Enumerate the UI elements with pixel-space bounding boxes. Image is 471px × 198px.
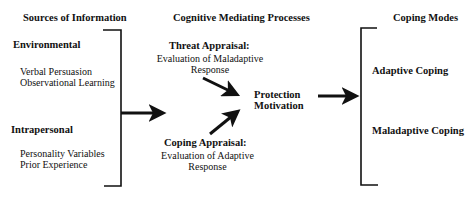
threat-to-protection-arrow: [203, 78, 236, 94]
intrapersonal-title: Intrapersonal: [11, 124, 73, 135]
sources-header: Sources of Information: [23, 12, 127, 23]
environmental-title: Environmental: [13, 39, 80, 50]
prior-experience: Prior Experience: [20, 159, 87, 170]
coping-to-protection-arrow: [210, 112, 237, 134]
modes-header: Coping Modes: [393, 12, 458, 23]
observational-learning: Observational Learning: [20, 77, 115, 88]
processes-header: Cognitive Mediating Processes: [173, 12, 310, 23]
maladaptive-coping: Maladaptive Coping: [372, 125, 464, 136]
verbal-persuasion: Verbal Persuasion: [20, 66, 92, 77]
coping-appraisal-line1: Evaluation of Adaptive: [150, 150, 265, 161]
personality-variables: Personality Variables: [20, 148, 105, 159]
coping-appraisal-line2: Response: [150, 161, 265, 172]
threat-appraisal-line1: Evaluation of Maladaptive: [150, 53, 270, 64]
adaptive-coping: Adaptive Coping: [372, 65, 448, 76]
threat-appraisal-title: Threat Appraisal:: [169, 40, 250, 51]
protection-motivation-line1: Protection: [254, 89, 300, 100]
coping-appraisal-title: Coping Appraisal:: [164, 137, 247, 148]
sources-bracket: [103, 30, 121, 186]
threat-appraisal-line2: Response: [150, 64, 270, 75]
modes-bracket: [361, 28, 378, 185]
protection-motivation-line2: Motivation: [254, 100, 304, 111]
